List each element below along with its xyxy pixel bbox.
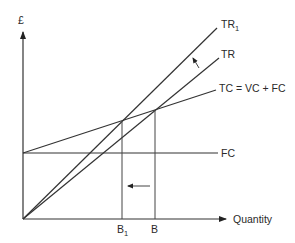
tc-label: TC = VC + FC	[219, 82, 286, 94]
b1-label: B1	[117, 223, 128, 238]
tr1-label: TR1	[221, 18, 239, 33]
revenue-shift-arrow-icon	[193, 58, 199, 68]
y-axis-label: £	[18, 14, 24, 26]
fc-label: FC	[221, 147, 235, 159]
tc-line	[23, 90, 216, 153]
tr-label: TR	[221, 48, 235, 60]
tr-line	[23, 58, 219, 219]
tr1-line	[23, 28, 217, 219]
break-even-diagram: £ Quantity TR1 TR TC = VC + FC FC B1 B	[0, 0, 295, 243]
b-label: B	[151, 223, 158, 235]
x-axis-label: Quantity	[233, 213, 273, 225]
